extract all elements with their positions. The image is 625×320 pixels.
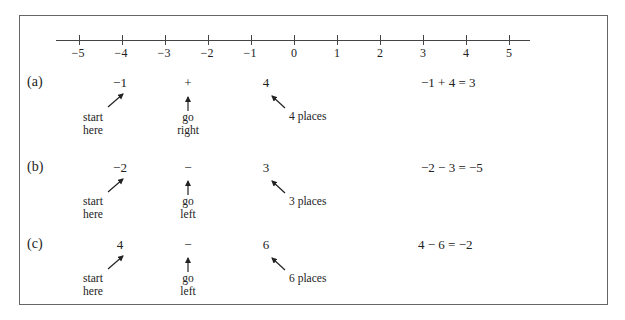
places-arrow-icon <box>272 181 285 193</box>
start-arrow-icon <box>108 256 123 269</box>
start-arrow-icon <box>108 179 123 192</box>
start-arrow-icon <box>108 94 123 107</box>
places-arrow-icon <box>272 258 285 270</box>
annotation-arrows <box>0 0 625 320</box>
places-arrow-icon <box>272 96 285 108</box>
